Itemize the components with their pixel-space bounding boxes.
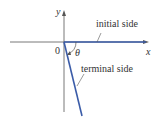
- origin-label: 0: [55, 45, 60, 56]
- angle-diagram: y x 0 θ initial side terminal side: [0, 0, 158, 124]
- terminal-side-leader: [77, 74, 84, 86]
- x-axis-label: x: [145, 46, 151, 57]
- y-axis-label: y: [55, 6, 61, 17]
- initial-side-label: initial side: [96, 18, 139, 29]
- initial-side-leader: [97, 33, 101, 42]
- y-axis-arrow-icon: [62, 10, 66, 16]
- angle-label: θ: [75, 47, 80, 58]
- angle-arrow-icon: [67, 51, 71, 55]
- terminal-side-label: terminal side: [81, 63, 133, 74]
